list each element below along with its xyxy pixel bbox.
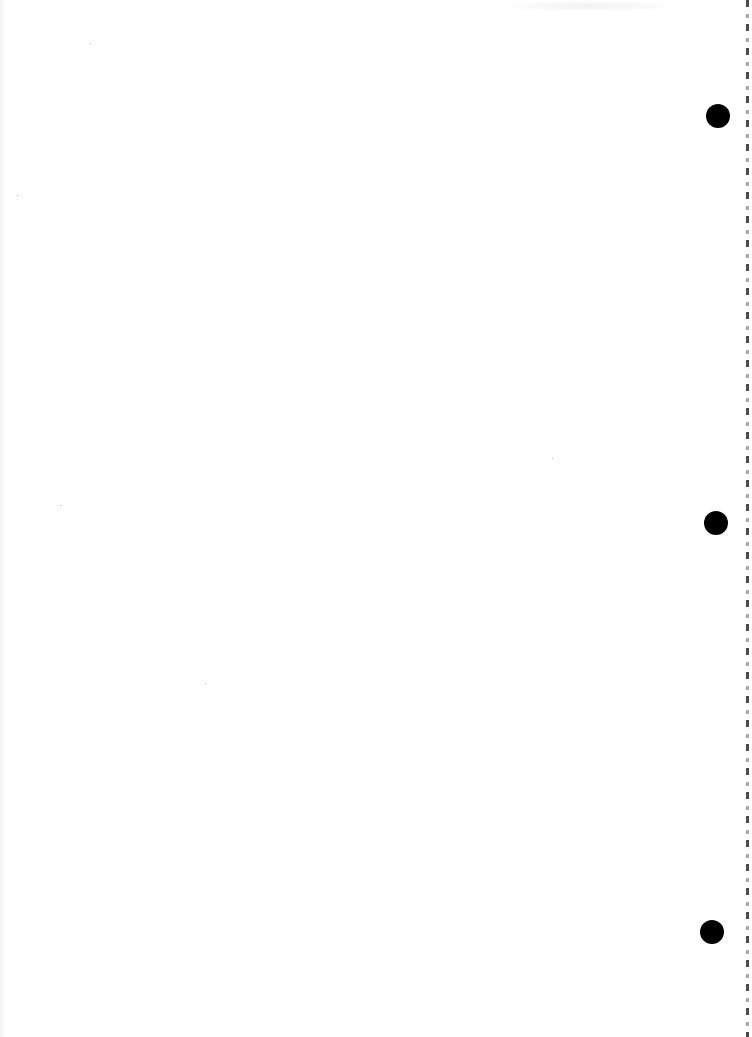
faint-bleed-through [500,0,680,12]
scan-speck [17,195,18,196]
blank-document-page [0,0,752,1037]
scan-speck [552,458,553,459]
binder-hole-top [706,104,730,128]
binder-hole-middle [704,511,728,535]
binder-hole-bottom [700,920,724,944]
perforated-tear-edge [746,0,749,1037]
scan-edge-shadow [0,0,6,1037]
scan-speck [205,683,206,684]
scan-speck [90,43,91,44]
scan-speck [60,505,61,506]
